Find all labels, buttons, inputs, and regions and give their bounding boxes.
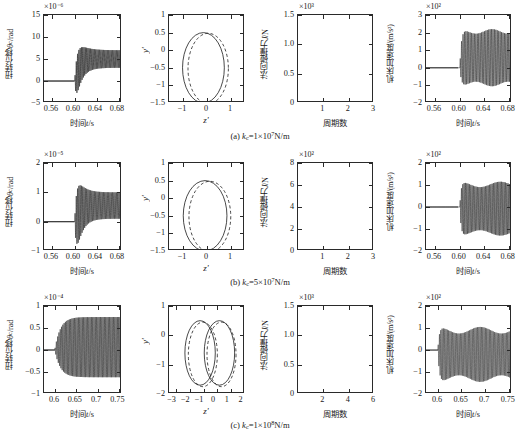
y-tick-c2-3: 1 xyxy=(138,301,165,310)
y-tick-b3-0: 0 xyxy=(267,246,294,255)
x-tick-mark-top xyxy=(207,163,208,167)
x-tick-mark xyxy=(323,246,324,250)
x-tick-c3-1: 4 xyxy=(346,395,350,404)
y-tick-b2-4: 0.5 xyxy=(138,175,165,184)
y-tick-c3-3: 1.5 xyxy=(267,301,294,310)
y-tick-a1-2: 5 xyxy=(14,54,40,63)
y-tick-mark xyxy=(298,74,302,75)
y-tick-mark xyxy=(44,59,48,60)
y-tick-a3-2: 1.0 xyxy=(267,39,294,48)
y-tick-mark-right xyxy=(369,306,373,307)
y-tick-mark xyxy=(426,50,430,51)
x-tick-c2-0: −3 xyxy=(167,395,176,404)
y-tick-c1-3: 0.5 xyxy=(14,323,40,332)
plot-area-a4 xyxy=(425,14,511,102)
y-tick-mark-right xyxy=(507,306,511,307)
y-tick-c3-0: 0 xyxy=(267,389,294,398)
y-tick-a1-4: 15 xyxy=(14,10,40,19)
x-tick-mark xyxy=(349,246,350,250)
y-tick-mark xyxy=(169,68,173,69)
x-tick-mark-top xyxy=(461,306,462,310)
y-tick-mark-right xyxy=(240,365,244,366)
x-axis-label-b1: 时间t/s xyxy=(43,264,121,276)
y-tick-c1-0: −1 xyxy=(14,389,40,398)
x-tick-mark xyxy=(119,389,120,393)
plot-svg-b3 xyxy=(298,163,373,250)
x-tick-b3-2: 3 xyxy=(371,252,375,261)
x-tick-mark xyxy=(509,98,510,102)
x-tick-a3-1: 2 xyxy=(346,104,350,113)
x-tick-mark xyxy=(98,389,99,393)
figure-row-a: 扭转位移θc/rad ×10⁻⁶ 15 10 5 0 −5 0.56 0.60 … xyxy=(0,0,520,148)
subplot-a2-phase-portrait: y' 1 0.5 0 −0.5 −1 −1.5 −1 0 1 z' xyxy=(130,0,255,118)
y-tick-mark-right xyxy=(240,335,244,336)
y-tick-mark xyxy=(44,372,48,373)
x-tick-b3-1: 2 xyxy=(346,252,350,261)
y-tick-mark xyxy=(298,365,302,366)
plot-area-c1 xyxy=(43,305,121,393)
subplot-b1-torsional-displacement: 扭转位移θc/rad ×10⁻⁵ 2 1 0 −1 0.56 0.60 0.64… xyxy=(0,148,130,266)
x-tick-mark xyxy=(460,246,461,250)
y-tick-mark-right xyxy=(117,328,121,329)
y-tick-b2-0: −1.5 xyxy=(138,246,165,255)
y-tick-mark xyxy=(426,185,430,186)
y-tick-mark xyxy=(426,15,430,16)
plot-area-a1 xyxy=(43,14,121,102)
y-tick-mark xyxy=(426,229,430,230)
y-tick-mark xyxy=(169,365,173,366)
subplot-b3-normal-impact-force: 法向碰撞力J/N ×10² 8 6 4 2 0 1 2 3 周期数 xyxy=(255,148,380,266)
y-tick-a2-0: −1.5 xyxy=(138,98,165,107)
y-tick-mark xyxy=(298,185,302,186)
x-tick-mark xyxy=(97,98,98,102)
x-tick-mark-top xyxy=(484,163,485,167)
x-tick-mark-top xyxy=(52,163,53,167)
y-tick-mark xyxy=(298,207,302,208)
x-tick-mark-top xyxy=(217,306,218,310)
x-tick-mark xyxy=(231,98,232,102)
y-tick-mark xyxy=(44,328,48,329)
x-tick-c1-1: 0.65 xyxy=(68,395,82,404)
x-tick-a4-0: 0.56 xyxy=(427,104,441,113)
x-axis-label-c1: 时间t/s xyxy=(43,407,121,419)
x-tick-mark xyxy=(217,389,218,393)
y-tick-mark-right xyxy=(369,229,373,230)
y-tick-mark xyxy=(169,163,173,164)
y-tick-mark-right xyxy=(117,59,121,60)
y-tick-mark-right xyxy=(507,85,511,86)
x-tick-mark-top xyxy=(207,15,208,19)
y-tick-mark xyxy=(298,163,302,164)
x-tick-c2-2: −1 xyxy=(195,395,204,404)
y-axis-label-impact-force-a3: 法向碰撞力J/N xyxy=(259,8,273,100)
plot-svg-a2 xyxy=(169,15,244,102)
x-tick-a4-3: 0.68 xyxy=(501,104,515,113)
x-tick-b1-0: 0.56 xyxy=(44,252,58,261)
y-tick-mark-right xyxy=(507,350,511,351)
y-tick-mark xyxy=(169,306,173,307)
axis-exponent-c4: ×10² xyxy=(426,293,441,302)
x-tick-mark xyxy=(75,98,76,102)
y-tick-mark-right xyxy=(507,163,511,164)
y-tick-c2-2: 0 xyxy=(138,330,165,339)
x-tick-mark-top xyxy=(323,163,324,167)
y-axis-label-torsional-displacement-b1: 扭转位移θc/rad xyxy=(4,154,18,250)
x-tick-b2-0: −1 xyxy=(178,252,187,261)
figure-root: 扭转位移θc/rad ×10⁻⁶ 15 10 5 0 −5 0.56 0.60 … xyxy=(0,0,520,442)
y-tick-mark xyxy=(169,335,173,336)
plot-svg-b4 xyxy=(426,163,511,250)
x-tick-b3-0: 1 xyxy=(320,252,324,261)
y-tick-mark-right xyxy=(507,68,511,69)
y-tick-mark xyxy=(298,229,302,230)
x-tick-mark-top xyxy=(460,15,461,19)
x-tick-mark-top xyxy=(55,306,56,310)
y-tick-mark-right xyxy=(240,33,244,34)
plot-svg-a4 xyxy=(426,15,511,102)
x-tick-mark xyxy=(484,246,485,250)
x-tick-b2-1: 0 xyxy=(204,252,208,261)
x-tick-mark-top xyxy=(231,306,232,310)
x-tick-mark-top xyxy=(323,306,324,310)
y-tick-mark-right xyxy=(240,306,244,307)
x-tick-mark xyxy=(435,246,436,250)
plot-area-a2 xyxy=(168,14,244,102)
x-tick-a2-0: −1 xyxy=(178,104,187,113)
y-tick-b2-2: −0.5 xyxy=(138,210,165,219)
